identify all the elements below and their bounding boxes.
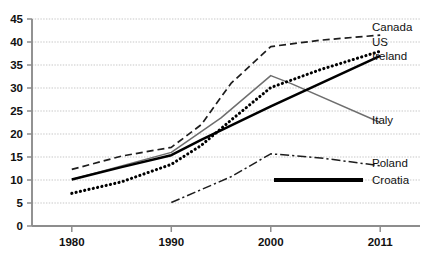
y-tick-label: 45 bbox=[10, 13, 23, 25]
series-label-ireland: Ireland bbox=[372, 50, 407, 62]
x-tick-label: 2011 bbox=[368, 236, 394, 248]
y-axis-tick-labels: 051015202530354045 bbox=[10, 13, 23, 232]
y-tick-label: 5 bbox=[17, 197, 24, 209]
series-label-croatia: Croatia bbox=[372, 174, 410, 186]
x-axis-tick-labels: 1980199020002011 bbox=[59, 236, 393, 248]
y-tick-label: 25 bbox=[10, 105, 23, 117]
series-labels: CanadaUSIrelandItalyPolandCroatia bbox=[372, 21, 413, 186]
chart-canvas: 051015202530354045 1980199020002011 Cana… bbox=[0, 0, 424, 255]
series-line-ireland bbox=[72, 56, 380, 180]
x-tick-label: 1990 bbox=[158, 236, 184, 248]
axis-tick-marks bbox=[27, 19, 380, 232]
series-label-italy: Italy bbox=[372, 114, 393, 126]
y-tick-label: 35 bbox=[10, 59, 23, 71]
x-tick-label: 1980 bbox=[59, 236, 85, 248]
series-label-poland: Poland bbox=[372, 157, 408, 169]
x-tick-label: 2000 bbox=[258, 236, 284, 248]
y-tick-label: 15 bbox=[10, 151, 23, 163]
series-lines bbox=[72, 35, 380, 202]
series-label-canada: Canada bbox=[372, 21, 413, 33]
y-tick-label: 30 bbox=[10, 82, 23, 94]
series-line-us bbox=[72, 51, 380, 193]
y-tick-label: 40 bbox=[10, 36, 23, 48]
y-tick-label: 0 bbox=[17, 220, 23, 232]
series-label-us: US bbox=[372, 36, 388, 48]
y-tick-label: 10 bbox=[10, 174, 23, 186]
y-tick-label: 20 bbox=[10, 128, 23, 140]
line-chart: 051015202530354045 1980199020002011 Cana… bbox=[0, 0, 424, 255]
